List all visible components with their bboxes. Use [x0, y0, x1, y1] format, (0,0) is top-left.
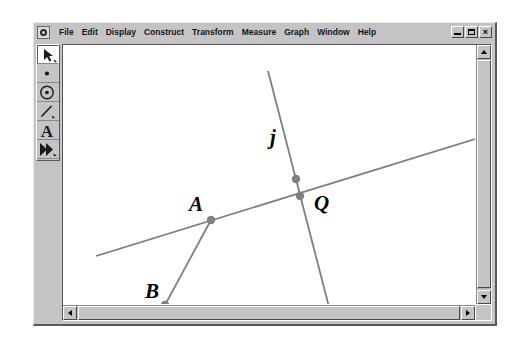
horizontal-scroll-thumb[interactable]: [78, 306, 460, 320]
scroll-right-arrow: [466, 310, 470, 316]
point-Q[interactable]: [296, 192, 304, 200]
compass-circle-tool[interactable]: [37, 83, 59, 102]
geometry-drawing: jAQB: [63, 45, 475, 304]
scroll-down-button[interactable]: [477, 290, 491, 304]
menu-display[interactable]: Display: [102, 26, 140, 39]
text-tool[interactable]: A: [37, 121, 59, 140]
scroll-up-button[interactable]: [477, 45, 491, 59]
geo-label-j[interactable]: j: [267, 125, 276, 149]
point-on-line-j-upper[interactable]: [292, 175, 300, 183]
sketchpad-app-icon[interactable]: [37, 26, 50, 39]
menu-transform[interactable]: Transform: [188, 26, 238, 39]
selection-arrow-tool[interactable]: [37, 45, 59, 64]
scroll-right-button[interactable]: [461, 306, 475, 320]
close-icon: ×: [480, 27, 491, 37]
scroll-down-arrow: [481, 295, 487, 299]
restore-button[interactable]: [465, 26, 478, 38]
screenshot-root: File Edit Display Construct Transform Me…: [0, 0, 517, 361]
straightedge-line-tool[interactable]: [37, 102, 59, 121]
segment-icon: [37, 102, 59, 121]
circle-icon: [37, 83, 59, 102]
menu-measure[interactable]: Measure: [238, 26, 281, 39]
vertical-scroll-thumb[interactable]: [477, 60, 491, 288]
close-button[interactable]: ×: [479, 26, 492, 38]
sketch-area: jAQB: [62, 44, 492, 321]
scroll-left-arrow: [68, 310, 72, 316]
geo-label-A[interactable]: A: [187, 192, 203, 216]
letter-a-icon: A: [37, 121, 59, 140]
point-tool[interactable]: [37, 64, 59, 83]
horizontal-scrollbar[interactable]: [63, 305, 475, 320]
toolbox: A: [36, 44, 60, 161]
geo-label-Q[interactable]: Q: [314, 191, 329, 215]
menu-bar: File Edit Display Construct Transform Me…: [34, 23, 495, 41]
sketchpad-window: File Edit Display Construct Transform Me…: [33, 22, 497, 326]
menu-construct[interactable]: Construct: [140, 26, 188, 39]
menu-graph[interactable]: Graph: [280, 26, 313, 39]
scroll-left-button[interactable]: [63, 306, 77, 320]
scroll-up-arrow: [481, 50, 487, 54]
menu-help[interactable]: Help: [354, 26, 380, 39]
line-shallow[interactable]: [96, 139, 475, 256]
point-icon: [37, 64, 59, 83]
point-A[interactable]: [207, 216, 215, 224]
menu-edit[interactable]: Edit: [78, 26, 102, 39]
line-j[interactable]: [268, 71, 336, 304]
double-arrow-icon: [37, 140, 59, 159]
vertical-scrollbar[interactable]: [476, 45, 491, 304]
custom-tool[interactable]: [37, 140, 59, 159]
sketch-canvas[interactable]: jAQB: [63, 45, 475, 304]
geo-label-B[interactable]: B: [144, 279, 159, 303]
menu-window[interactable]: Window: [313, 26, 354, 39]
menu-file[interactable]: File: [55, 26, 78, 39]
arrow-icon: [38, 46, 60, 65]
minimize-button[interactable]: [451, 26, 464, 38]
scrollbar-corner: [476, 305, 491, 320]
window-controls: ×: [451, 26, 495, 38]
svg-text:A: A: [41, 122, 54, 140]
